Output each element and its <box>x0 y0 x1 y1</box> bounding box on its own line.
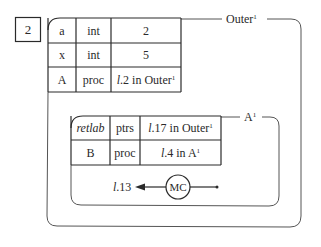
activation-diagram: 2 Outer1 a int 2 x int 5 A proc l.2 in O… <box>0 0 321 247</box>
table-row: a int 2 <box>59 24 149 38</box>
var-name: B <box>86 146 94 160</box>
continuation-dot-icon <box>216 186 219 189</box>
var-type: proc <box>83 73 104 87</box>
var-value: 5 <box>143 48 149 62</box>
table-row: retlab ptrs l.17 in Outer1 <box>76 121 213 135</box>
var-value: l.2 in Outer1 <box>117 73 176 87</box>
var-name: x <box>59 48 65 62</box>
arrow-left-icon <box>135 184 145 191</box>
frame-number: 2 <box>25 22 32 37</box>
mc-node-label: MC <box>169 181 186 193</box>
outer-table: a int 2 x int 5 A proc l.2 in Outer1 <box>48 18 181 92</box>
control-flow: l.13 MC <box>113 175 219 199</box>
var-type: int <box>87 24 100 38</box>
var-type: proc <box>114 146 135 160</box>
return-label: l.13 <box>113 180 131 194</box>
frame-number-box: 2 <box>16 18 41 42</box>
outer-frame-title: Outer1 <box>226 12 257 26</box>
table-row: x int 5 <box>59 48 149 62</box>
var-value: l.4 in A1 <box>161 146 201 160</box>
table-row: B proc l.4 in A1 <box>86 146 200 160</box>
table-row: A proc l.2 in Outer1 <box>58 73 176 87</box>
inner-frame-title: A1 <box>244 110 257 124</box>
var-name: A <box>58 73 67 87</box>
var-type: int <box>87 48 100 62</box>
var-value: 2 <box>143 24 149 38</box>
var-name: a <box>59 24 65 38</box>
inner-table: retlab ptrs l.17 in Outer1 B proc l.4 in… <box>71 116 221 165</box>
var-value: l.17 in Outer1 <box>148 121 213 135</box>
var-name: retlab <box>76 121 104 135</box>
var-type: ptrs <box>116 121 134 135</box>
